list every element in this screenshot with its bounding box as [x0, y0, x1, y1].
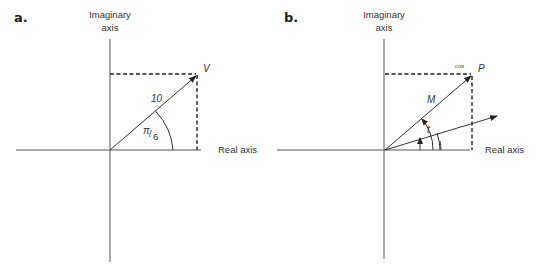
cos-annotation: cos: [455, 62, 465, 70]
svg-text:6: 6: [153, 131, 158, 142]
panel-b-label: b.: [284, 10, 298, 25]
angle-arc-b: [437, 133, 440, 150]
svg-text:/: /: [149, 128, 152, 139]
imaginary-axis-label-a: Imaginary: [89, 9, 131, 20]
panel-b: b. Imaginary axis Real axis cos P M t: [277, 9, 524, 259]
real-axis-label-a: Real axis: [218, 144, 257, 155]
phasor-diagram: a. Imaginary axis Real axis V 10 π / 6 b…: [0, 0, 540, 275]
magnitude-label-a: 10: [151, 93, 163, 104]
angle-label-a: π / 6: [143, 125, 158, 142]
magnitude-label-b: M: [427, 94, 436, 105]
imaginary-axis-label-b-line2: axis: [376, 22, 393, 33]
point-v-label: V: [203, 63, 211, 74]
panel-a: a. Imaginary axis Real axis V 10 π / 6: [14, 9, 257, 262]
point-p-label: P: [478, 63, 485, 74]
vector-p: [385, 76, 471, 150]
imaginary-axis-label-a-line2: axis: [102, 22, 119, 33]
real-axis-label-b: Real axis: [485, 144, 524, 155]
panel-a-label: a.: [14, 10, 28, 25]
imaginary-axis-label-b: Imaginary: [363, 9, 405, 20]
